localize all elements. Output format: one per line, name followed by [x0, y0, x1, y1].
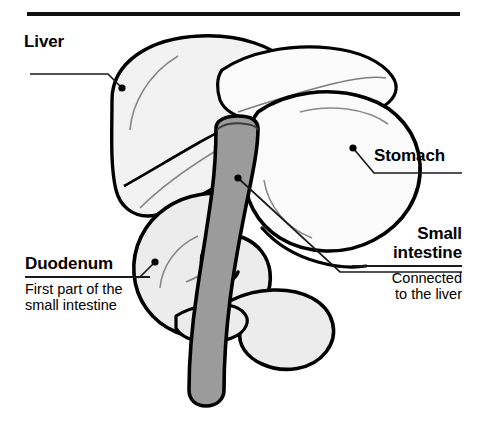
small-intestine-leader-dot [234, 174, 241, 181]
duodenum-lower-loop [232, 290, 334, 369]
anatomy-illustration [0, 0, 482, 428]
label-liver-title: Liver [24, 32, 146, 51]
label-small-intestine-subtitle-line-1: Connected [352, 270, 462, 286]
label-duodenum-subtitle-line-1: First part of the [25, 281, 150, 297]
label-duodenum-subtitle-line-2: small intestine [25, 297, 150, 313]
label-small-intestine-rule [352, 265, 462, 267]
label-liver: Liver [24, 32, 146, 51]
label-duodenum-title: Duodenum [25, 254, 150, 273]
liver-leader-dot [118, 84, 125, 91]
label-stomach: Stomach [374, 146, 474, 165]
label-small-intestine-title-line-2: intestine [352, 243, 462, 262]
duodenum-leader-dot [151, 258, 158, 265]
stomach-leader-dot [349, 144, 356, 151]
label-small-intestine: Small intestine Connected to the liver [352, 224, 462, 302]
label-duodenum-rule [25, 276, 150, 278]
label-duodenum: Duodenum First part of the small intesti… [25, 254, 150, 313]
label-small-intestine-subtitle-line-2: to the liver [352, 286, 462, 302]
liver-leader-line [30, 74, 122, 88]
label-small-intestine-title-line-1: Small [352, 224, 462, 243]
diagram-page: Liver Stomach Small intestine Connected … [0, 0, 482, 428]
label-stomach-title: Stomach [374, 146, 474, 165]
